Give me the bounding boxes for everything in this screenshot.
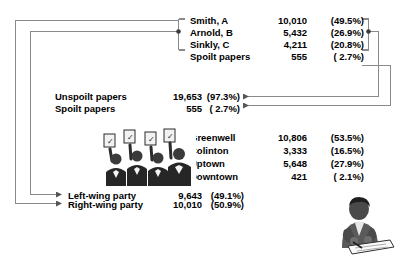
row-percent: ( 2.1%) [312, 170, 364, 183]
official-writing-clipart [326, 196, 396, 258]
svg-text:✓: ✓ [167, 132, 174, 141]
row-value: 10,806 [255, 131, 307, 144]
row-label: Right-wing party [68, 198, 143, 211]
row-percent: (27.9%) [312, 157, 364, 170]
row-label: Spoilt papers [55, 102, 115, 115]
junction-dot-right [366, 29, 371, 34]
row-value: 555 [255, 50, 307, 63]
row-label: Greenwell [190, 131, 235, 144]
svg-text:✓: ✓ [127, 133, 134, 142]
row-value: 3,333 [255, 144, 307, 157]
svg-text:✓: ✓ [148, 135, 155, 144]
row-percent: (16.5%) [312, 144, 364, 157]
voters-clipart: ✓ ✓ ✓ ✓ [100, 128, 196, 186]
row-label: Spoilt papers [190, 50, 250, 63]
row-percent: (50.9%) [192, 198, 244, 211]
row-value: 421 [255, 170, 307, 183]
diagram-canvas: Smith, A 10,010 (49.5%) Arnold, B 5,432 … [0, 0, 411, 261]
row-percent: ( 2.7%) [312, 50, 364, 63]
row-percent: ( 2.7%) [188, 102, 240, 115]
junction-dot-left [176, 29, 181, 34]
row-percent: (53.5%) [312, 131, 364, 144]
svg-text:✓: ✓ [107, 137, 114, 146]
row-value: 5,648 [255, 157, 307, 170]
row-label: Downtown [190, 170, 238, 183]
